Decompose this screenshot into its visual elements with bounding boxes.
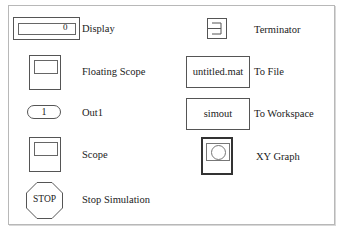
terminator-label: Terminator [254, 24, 301, 36]
xy-graph-label: XY Graph [256, 151, 300, 163]
xy-graph-circle-icon [211, 145, 226, 160]
scope-label: Scope [82, 149, 108, 161]
scope-screen-icon [34, 60, 58, 74]
scope-block[interactable] [29, 137, 61, 172]
stop-simulation-label: Stop Simulation [82, 194, 150, 206]
to-file-filename: untitled.mat [187, 66, 249, 77]
out1-label: Out1 [82, 107, 103, 119]
floating-scope-label: Floating Scope [82, 66, 145, 78]
to-workspace-block[interactable]: simout [186, 98, 250, 130]
xy-graph-block[interactable] [201, 137, 233, 175]
to-file-block[interactable]: untitled.mat [186, 56, 250, 88]
to-file-label: To File [254, 66, 284, 78]
out1-port-number: 1 [28, 106, 60, 117]
display-label: Display [82, 23, 115, 35]
terminator-icon [208, 19, 226, 38]
terminator-block[interactable] [207, 18, 227, 39]
scope-screen-icon [34, 142, 58, 156]
display-block[interactable]: 0 [13, 17, 80, 40]
stop-simulation-block[interactable]: STOP [26, 182, 63, 219]
floating-scope-block[interactable] [29, 55, 61, 90]
to-workspace-label: To Workspace [254, 108, 314, 120]
stop-text: STOP [26, 194, 63, 204]
xy-graph-screen [206, 143, 230, 161]
to-workspace-variable: simout [187, 108, 249, 119]
out1-block[interactable]: 1 [27, 105, 61, 119]
display-value: 0 [63, 22, 68, 32]
